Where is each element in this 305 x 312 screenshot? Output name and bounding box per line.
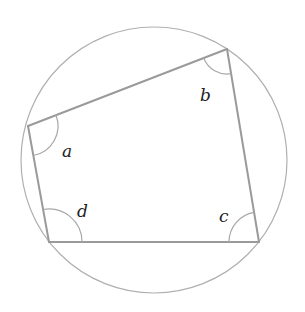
side-bc xyxy=(227,49,259,242)
angle-label-a: a xyxy=(62,141,72,161)
circumcircle xyxy=(21,27,287,293)
side-da xyxy=(28,126,49,242)
cyclic-quadrilateral-diagram: a b c d xyxy=(0,0,305,312)
angle-label-c: c xyxy=(219,206,229,226)
angle-label-b: b xyxy=(200,85,211,105)
angle-label-d: d xyxy=(77,201,88,221)
angle-arc-a xyxy=(33,115,58,155)
angle-arc-b xyxy=(204,58,231,74)
side-ab xyxy=(28,49,227,126)
angle-arc-c xyxy=(229,212,254,242)
